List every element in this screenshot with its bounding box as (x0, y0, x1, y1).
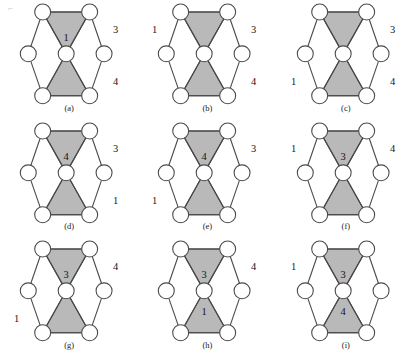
hexagon-edge-2 (231, 61, 240, 88)
hexagon-edge-5 (31, 20, 40, 47)
vertex-right (373, 165, 389, 181)
hexagon-edge-4 (308, 61, 317, 88)
vertex-left (297, 283, 313, 299)
vertex-center (197, 46, 213, 62)
vertex-center (197, 283, 213, 299)
panel-caption-b: (b) (138, 103, 276, 113)
vertex-bottom-right (82, 88, 98, 104)
outer-label-left-lower: 1 (152, 194, 157, 205)
vertex-bottom-left (173, 88, 189, 104)
hexagon-diagram-panel-f: 314(f) (277, 119, 415, 238)
triangle-label-top-triangle: 3 (340, 151, 345, 162)
vertex-top-left (35, 4, 51, 20)
hexagon-graph-a: 134 (0, 0, 138, 119)
panel-caption-e: (e) (138, 221, 276, 231)
vertex-center (58, 165, 74, 181)
vertex-top-right (358, 123, 374, 139)
vertex-top-left (311, 241, 327, 257)
vertex-right (373, 283, 389, 299)
vertex-bottom-right (220, 206, 236, 222)
vertex-right (96, 165, 112, 181)
triangle-label-top-triangle: 4 (202, 151, 208, 162)
hexagon-diagram-panel-d: 431(d) (0, 119, 138, 238)
vertex-bottom-left (35, 325, 51, 341)
outer-label-right-upper: 3 (251, 142, 256, 153)
vertex-center (197, 165, 213, 181)
hexagon-graph-c: 314 (277, 0, 415, 119)
vertex-bottom-right (358, 88, 374, 104)
panel-caption-h: (h) (138, 340, 276, 350)
hexagon-edge-5 (308, 20, 317, 47)
vertex-bottom-right (82, 206, 98, 222)
outer-label-right-upper: 3 (113, 24, 118, 35)
hexagon-diagram-panel-a: 134(a) (0, 0, 138, 119)
triangle-label-top-triangle: 1 (64, 32, 69, 43)
outer-label-left-lower: 1 (291, 76, 296, 87)
outer-label-right-upper: 4 (390, 142, 396, 153)
hexagon-edge-5 (31, 138, 40, 165)
vertex-bottom-right (220, 325, 236, 341)
vertex-bottom-right (358, 206, 374, 222)
vertex-bottom-left (35, 88, 51, 104)
hexagon-edge-1 (231, 138, 240, 165)
hexagon-edge-2 (231, 299, 240, 326)
hexagon-edge-4 (31, 180, 40, 207)
vertex-top-right (220, 241, 236, 257)
hexagon-diagram-panel-h: 314(h) (138, 237, 276, 356)
vertex-top-left (311, 123, 327, 139)
panel-caption-c: (c) (277, 103, 415, 113)
hexagon-edge-4 (169, 180, 178, 207)
hexagon-diagram-panel-i: 341(i) (277, 237, 415, 356)
hexagon-edge-2 (369, 61, 378, 88)
outer-label-right-lower: 4 (390, 76, 396, 87)
vertex-center (335, 46, 351, 62)
hexagon-graph-f: 314 (277, 119, 415, 238)
hexagon-edge-2 (92, 61, 101, 88)
vertex-top-right (220, 4, 236, 20)
panel-caption-i: (i) (277, 340, 415, 350)
vertex-bottom-right (358, 325, 374, 341)
hexagon-edge-5 (308, 138, 317, 165)
outer-label-left-upper: 1 (291, 142, 296, 153)
panel-caption-g: (g) (0, 340, 138, 350)
vertex-left (297, 46, 313, 62)
hexagon-edge-4 (31, 299, 40, 326)
triangle-label-top-triangle: 3 (202, 269, 207, 280)
vertex-right (96, 283, 112, 299)
hexagon-edge-1 (369, 138, 378, 165)
outer-label-right-upper: 3 (390, 24, 395, 35)
vertex-top-left (173, 241, 189, 257)
outer-label-right-lower: 4 (251, 76, 257, 87)
hexagon-edge-5 (308, 257, 317, 284)
vertex-top-left (173, 4, 189, 20)
outer-label-right-upper: 4 (113, 261, 119, 272)
vertex-left (20, 46, 36, 62)
triangle-label-top-triangle: 3 (64, 269, 69, 280)
triangle-label-top-triangle: 4 (64, 151, 70, 162)
hexagon-edge-1 (369, 257, 378, 284)
hexagon-edge-2 (92, 299, 101, 326)
outer-label-right-lower: 1 (113, 194, 118, 205)
vertex-top-right (82, 123, 98, 139)
vertex-left (159, 46, 175, 62)
hexagon-edge-1 (92, 257, 101, 284)
vertex-top-right (358, 4, 374, 20)
hexagon-edge-1 (369, 20, 378, 47)
hexagon-diagram-panel-g: 341(g) (0, 237, 138, 356)
hexagon-edge-1 (231, 20, 240, 47)
vertex-bottom-left (173, 206, 189, 222)
hexagon-edge-2 (92, 180, 101, 207)
hexagon-graph-e: 431 (138, 119, 276, 238)
vertex-top-left (311, 4, 327, 20)
outer-label-left-upper: 1 (152, 24, 157, 35)
outer-label-right-lower: 4 (113, 76, 119, 87)
vertex-top-right (358, 241, 374, 257)
hexagon-edge-5 (31, 257, 40, 284)
vertex-top-left (173, 123, 189, 139)
vertex-right (234, 46, 250, 62)
hexagon-edge-1 (92, 138, 101, 165)
vertex-left (159, 165, 175, 181)
hexagon-edge-4 (31, 61, 40, 88)
hexagon-edge-4 (308, 180, 317, 207)
vertex-center (335, 165, 351, 181)
